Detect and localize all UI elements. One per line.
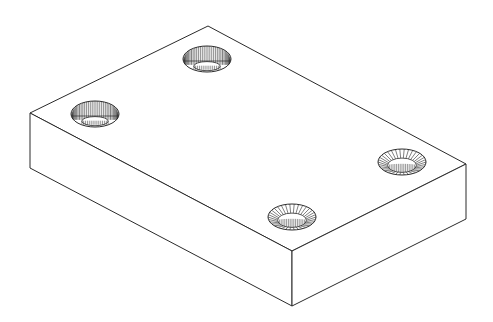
plate-drawing-svg	[0, 0, 493, 322]
hole-back	[183, 46, 231, 72]
hole-right	[378, 149, 426, 175]
technical-drawing	[0, 0, 493, 322]
hole-left	[71, 101, 119, 127]
hole-front	[268, 204, 316, 230]
